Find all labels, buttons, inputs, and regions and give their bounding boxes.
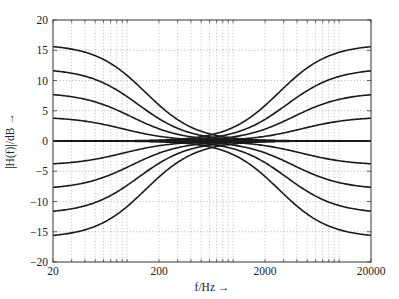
y-tick-label: 15 — [37, 44, 49, 56]
y-tick-label: −5 — [36, 165, 48, 177]
y-tick-labels: 20151050−5−10−15−20 — [30, 14, 48, 268]
x-tick-label: 2000 — [254, 265, 277, 277]
response-curve — [53, 47, 371, 141]
y-tick-label: 0 — [42, 135, 48, 147]
x-axis-label-text: f/Hz → — [195, 281, 230, 293]
x-axis-label: f/Hz → — [195, 281, 230, 293]
y-tick-label: −10 — [30, 196, 48, 208]
y-tick-label: −20 — [30, 256, 48, 268]
x-tick-labels: 20200200020000 — [47, 265, 385, 277]
y-axis-label-text: |H(f)|/dB → — [4, 113, 17, 168]
response-curve — [53, 141, 371, 235]
response-curve — [53, 141, 371, 235]
x-tick-label: 200 — [150, 265, 168, 277]
response-curve — [53, 47, 371, 141]
x-tick-label: 20000 — [357, 265, 386, 277]
y-tick-label: 10 — [37, 75, 49, 87]
response-curves — [53, 47, 371, 236]
y-tick-label: −15 — [30, 226, 48, 238]
shelf-filter-chart: 20151050−5−10−15−20 20200200020000 f/Hz … — [0, 0, 399, 299]
y-tick-label: 20 — [37, 14, 49, 26]
x-tick-label: 20 — [47, 265, 59, 277]
y-axis-label: |H(f)|/dB → — [4, 113, 17, 168]
y-tick-label: 5 — [42, 105, 48, 117]
